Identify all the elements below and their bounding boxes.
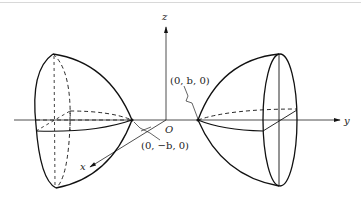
x-axis-label: x — [80, 161, 86, 172]
leader-positive — [184, 86, 198, 119]
vertex-positive-dot — [196, 118, 199, 121]
origin-label: O — [165, 124, 173, 135]
hyperboloid-diagram: z y x O (0, b, 0) (0, −b, 0) — [0, 0, 361, 200]
z-axis-label: z — [161, 11, 168, 22]
vertex-negative-dot — [130, 118, 133, 121]
point-label-negative: (0, −b, 0) — [141, 140, 189, 151]
y-axis-label: y — [343, 115, 350, 126]
point-label-positive: (0, b, 0) — [170, 75, 210, 86]
